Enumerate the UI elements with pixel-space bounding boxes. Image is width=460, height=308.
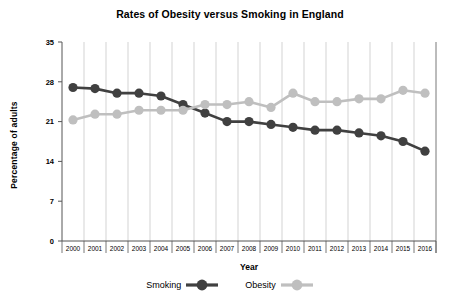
data-point-marker [266,120,275,129]
data-series-layer [68,83,429,156]
legend-item-obesity[interactable]: Obesity [245,278,314,292]
y-tick-label: 35 [46,38,54,47]
data-point-marker [332,97,341,106]
series-smoking [68,83,429,156]
data-point-marker [200,100,209,109]
data-point-marker [310,126,319,135]
data-point-marker [354,128,363,137]
data-point-marker [244,117,253,126]
x-axis-title: Year [62,262,436,272]
data-point-marker [376,94,385,103]
y-axis-title: Percentage of adults [9,70,19,220]
x-tick-label: 2004 [154,245,169,252]
data-point-marker [156,91,165,100]
data-point-marker [90,110,99,119]
legend-item-smoking[interactable]: Smoking [146,278,219,292]
data-point-marker [68,115,77,124]
data-point-marker [376,131,385,140]
legend-label-smoking: Smoking [146,280,181,290]
y-tick-label: 21 [46,117,54,126]
y-tick-label: 0 [50,237,54,246]
data-point-marker [420,147,429,156]
legend-marker-obesity [280,278,314,292]
grid-lines [84,42,414,241]
legend-marker-smoking [185,278,219,292]
chart-legend: Smoking Obesity [0,278,460,292]
x-tick-label: 2009 [264,245,279,252]
y-tick-label: 14 [46,157,55,166]
chart-container: Rates of Obesity versus Smoking in Engla… [0,0,460,308]
x-tick-label: 2008 [242,245,257,252]
y-tick-label: 28 [46,78,54,87]
data-point-marker [332,126,341,135]
data-point-marker [112,89,121,98]
data-point-marker [156,106,165,115]
data-point-marker [398,137,407,146]
x-tick-label: 2001 [88,245,103,252]
x-tick-label: 2007 [220,245,235,252]
data-point-marker [112,110,121,119]
x-tick-label: 2002 [110,245,125,252]
axis-lines [62,42,436,253]
data-point-marker [134,89,143,98]
data-point-marker [200,108,209,117]
x-tick-labels: 2000200120022003200420052006200720082009… [66,245,433,252]
data-point-marker [288,89,297,98]
x-tick-label: 2013 [352,245,367,252]
data-point-marker [398,86,407,95]
data-point-marker [222,117,231,126]
legend-label-obesity: Obesity [245,280,276,290]
x-tick-label: 2016 [418,245,433,252]
x-tick-label: 2005 [176,245,191,252]
data-point-marker [222,100,231,109]
data-point-marker [244,97,253,106]
x-tick-label: 2000 [66,245,81,252]
x-tick-label: 2014 [374,245,389,252]
data-point-marker [134,106,143,115]
y-tick-marks [58,42,62,241]
data-point-marker [266,103,275,112]
x-tick-label: 2012 [330,245,345,252]
y-tick-label: 7 [50,197,54,206]
y-tick-labels: 0714212835 [46,38,55,246]
x-tick-label: 2003 [132,245,147,252]
data-point-marker [178,106,187,115]
data-point-marker [420,89,429,98]
data-point-marker [288,123,297,132]
x-tick-label: 2011 [308,245,322,252]
data-point-marker [310,97,319,106]
x-tick-label: 2006 [198,245,213,252]
data-point-marker [90,84,99,93]
x-tick-label: 2015 [396,245,411,252]
data-point-marker [354,94,363,103]
data-point-marker [68,83,77,92]
x-tick-label: 2010 [286,245,301,252]
